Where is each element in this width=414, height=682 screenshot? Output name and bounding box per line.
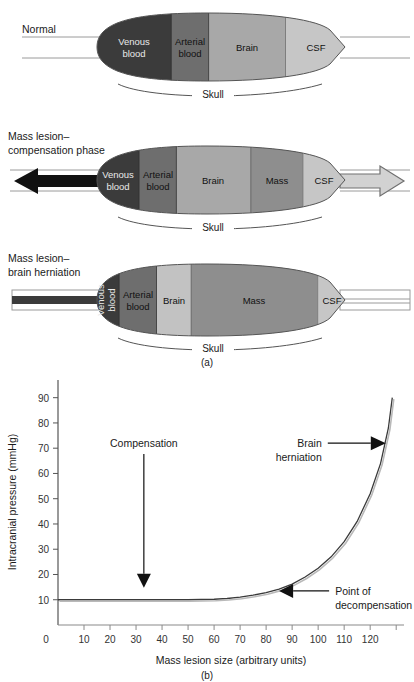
segment-label-venous-blood-1: Venous bbox=[102, 169, 134, 180]
segment-label-arterial-blood-2: blood bbox=[178, 48, 201, 59]
skull-label: Skull bbox=[202, 343, 224, 354]
segment-label-venous-blood-2: blood bbox=[106, 288, 117, 311]
x-tick-label: 20 bbox=[104, 634, 116, 645]
row-label-herniation-1: Mass lesion– bbox=[8, 252, 69, 264]
row-label-normal: Normal bbox=[22, 23, 56, 35]
venous-outflow-arrow bbox=[14, 168, 100, 194]
x-tick-label: 100 bbox=[310, 634, 327, 645]
segment-label-mass: Mass bbox=[266, 175, 289, 186]
svg-text:Compensation: Compensation bbox=[110, 437, 178, 449]
x-tick-label: 70 bbox=[235, 634, 247, 645]
y-tick-label: 10 bbox=[38, 595, 50, 606]
panel-b-caption: (b) bbox=[201, 670, 213, 681]
csf-displacement-channel bbox=[340, 290, 410, 310]
segment-label-arterial-blood-1: Arterial bbox=[143, 169, 173, 180]
x-axis-title: Mass lesion size (arbitrary units) bbox=[156, 654, 307, 666]
annotation-brain-herniation: Brain herniation bbox=[276, 436, 386, 463]
y-tick-label: 90 bbox=[38, 393, 50, 404]
segment-label-csf: CSF bbox=[307, 42, 326, 53]
x-tick-label: 110 bbox=[336, 634, 352, 645]
x-tick-label: 10 bbox=[78, 634, 90, 645]
segment-label-brain: Brain bbox=[163, 295, 185, 306]
y-tick-label: 70 bbox=[38, 443, 50, 454]
y-tick-label: 60 bbox=[38, 468, 50, 479]
row-label-compensation-1: Mass lesion– bbox=[8, 130, 69, 142]
x-tick-label: 40 bbox=[156, 634, 168, 645]
x-tick-label: 50 bbox=[183, 634, 195, 645]
panel-a-skull-compartments: Normal Venous blood Arterial blood Brain… bbox=[0, 0, 414, 368]
y-tick-label: 20 bbox=[38, 569, 50, 580]
segment-label-csf: CSF bbox=[323, 295, 342, 306]
segment-label-brain: Brain bbox=[202, 175, 224, 186]
segment-label-arterial-blood-1: Arterial bbox=[175, 36, 205, 47]
x-tick-label: 0 bbox=[43, 634, 49, 645]
annotation-point-of-decompensation: Point of decompensation bbox=[279, 584, 412, 611]
icp-chart: 102030405060708090 010203040506070809010… bbox=[0, 368, 414, 682]
panel-a-caption: (a) bbox=[201, 357, 213, 368]
svg-text:Brain: Brain bbox=[297, 437, 322, 449]
x-tick-label: 80 bbox=[261, 634, 273, 645]
x-tick-label: 90 bbox=[287, 634, 299, 645]
svg-text:Point of: Point of bbox=[335, 585, 371, 597]
panel-row-compensation: Mass lesion– compensation phase bbox=[8, 130, 410, 233]
segment-label-venous-blood-1: Venous bbox=[118, 36, 150, 47]
y-axis-title: Intracranial pressure (mmHg) bbox=[6, 434, 18, 571]
segment-label-arterial-blood-2: blood bbox=[126, 301, 149, 312]
x-axis-ticks: 0102030405060708090100110120 bbox=[43, 625, 396, 645]
segment-label-venous-blood-2: blood bbox=[122, 48, 145, 59]
segment-label-brain: Brain bbox=[236, 42, 258, 53]
segment-label-venous-blood-1: Venous bbox=[95, 284, 106, 316]
row-label-compensation-2: compensation phase bbox=[8, 144, 105, 156]
skull-label: Skull bbox=[202, 222, 224, 233]
arrow-down-icon bbox=[137, 574, 151, 588]
segment-label-venous-blood-2: blood bbox=[106, 181, 129, 192]
icp-curve-line bbox=[58, 398, 392, 600]
segment-label-arterial-blood-2: blood bbox=[146, 181, 169, 192]
panel-row-normal: Normal Venous blood Arterial blood Brain… bbox=[22, 10, 410, 100]
icp-curve-shadow bbox=[60, 399, 394, 601]
y-tick-label: 80 bbox=[38, 418, 50, 429]
segment-label-mass: Mass bbox=[243, 295, 266, 306]
x-tick-label: 30 bbox=[130, 634, 142, 645]
segment-label-csf: CSF bbox=[315, 175, 334, 186]
y-tick-label: 30 bbox=[38, 544, 50, 555]
y-tick-label: 40 bbox=[38, 519, 50, 530]
svg-text:decompensation: decompensation bbox=[335, 599, 412, 611]
x-tick-label: 120 bbox=[362, 634, 379, 645]
venous-outflow-bar bbox=[12, 296, 100, 304]
row-label-herniation-2: brain herniation bbox=[8, 266, 81, 278]
panel-row-herniation: Mass lesion– brain herniation Venous bbox=[8, 252, 410, 368]
x-tick-label: 60 bbox=[209, 634, 221, 645]
panel-b-icp-curve: 102030405060708090 010203040506070809010… bbox=[0, 368, 414, 682]
y-axis-ticks: 102030405060708090 bbox=[38, 393, 58, 606]
segment-label-arterial-blood-1: Arterial bbox=[123, 289, 153, 300]
svg-text:herniation: herniation bbox=[276, 451, 322, 463]
segment-arterial-blood bbox=[119, 261, 156, 339]
annotation-compensation: Compensation bbox=[110, 437, 178, 588]
y-tick-label: 50 bbox=[38, 494, 50, 505]
skull-label: Skull bbox=[202, 89, 224, 100]
